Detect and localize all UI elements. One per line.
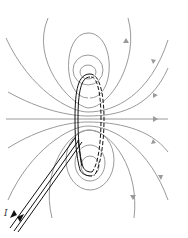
current-label: I — [4, 208, 8, 218]
field-diagram — [0, 0, 188, 238]
lead-wire-2 — [14, 140, 79, 231]
current-arrow-icon — [10, 210, 17, 218]
arrow-icon — [123, 38, 129, 43]
field-line-top-6 — [8, 68, 168, 116]
field-line-bottom-3 — [49, 130, 135, 218]
field-line-top-2 — [73, 55, 103, 85]
current-loop — [75, 74, 104, 176]
loop-back-inner — [91, 77, 101, 172]
lead-wire-1 — [10, 138, 75, 228]
arrow-icon — [153, 93, 158, 98]
loop-front-outer — [75, 74, 92, 176]
arrow-icon — [153, 116, 158, 122]
field-lines — [6, 18, 168, 218]
arrow-icon — [151, 59, 156, 64]
field-line-top-4 — [43, 18, 130, 108]
lead-wire-4 — [18, 142, 82, 232]
field-line-bottom-2 — [8, 126, 168, 200]
